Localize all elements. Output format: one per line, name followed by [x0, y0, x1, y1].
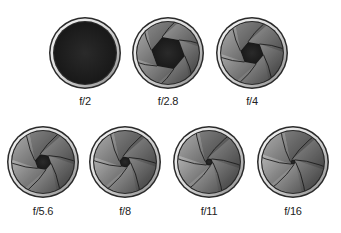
f-stop-label: f/2.8: [158, 95, 178, 107]
iris-icon: [88, 125, 162, 199]
aperture-f-11: [172, 125, 246, 199]
iris-icon: [131, 16, 205, 90]
iris-icon: [256, 125, 330, 199]
aperture-f-4: [215, 16, 289, 90]
iris-icon: [172, 125, 246, 199]
aperture-f-16: [256, 125, 330, 199]
aperture-f-2: [48, 16, 122, 90]
f-stop-label: f/4: [246, 95, 258, 107]
f-stop-label: f/5.6: [33, 205, 53, 217]
f-stop-label: f/16: [284, 205, 302, 217]
aperture-f-8: [88, 125, 162, 199]
aperture-f-5_6: [6, 125, 80, 199]
iris-icon: [215, 16, 289, 90]
iris-icon: [48, 16, 122, 90]
f-stop-label: f/11: [201, 205, 218, 217]
f-stop-label: f/2: [79, 95, 91, 107]
aperture-f-2_8: [131, 16, 205, 90]
iris-icon: [6, 125, 80, 199]
f-stop-label: f/8: [119, 205, 131, 217]
